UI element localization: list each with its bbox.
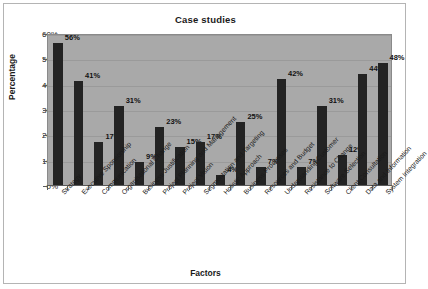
bar-group: 23% bbox=[155, 35, 164, 185]
x-axis-tick-mark bbox=[47, 186, 48, 190]
x-axis-tick-mark bbox=[392, 186, 393, 190]
chart-container: Case studies Percentage 0%10%20%30%40%50… bbox=[3, 3, 406, 284]
x-axis-tick-mark bbox=[270, 186, 271, 190]
x-axis-title: Factors bbox=[4, 268, 407, 278]
bar-group: 17% bbox=[94, 35, 103, 185]
plot-area: 56%41%17%31%9%23%15%17%4%25%7%42%7%31%12… bbox=[47, 34, 392, 186]
x-axis-tick-mark bbox=[189, 186, 190, 190]
x-axis-tick-mark bbox=[128, 186, 129, 190]
x-axis-tick-mark bbox=[67, 186, 68, 190]
x-axis-line bbox=[47, 185, 392, 186]
bar[interactable] bbox=[74, 81, 83, 185]
x-axis-tick-mark bbox=[209, 186, 210, 190]
chart-title: Case studies bbox=[4, 14, 407, 25]
bar-group: 41% bbox=[74, 35, 83, 185]
bar-group: 44% bbox=[358, 35, 367, 185]
bar-group: 4% bbox=[216, 35, 225, 185]
x-axis-tick-mark bbox=[291, 186, 292, 190]
bar-group: 56% bbox=[53, 35, 62, 185]
bar-value-label: 48% bbox=[390, 53, 405, 62]
x-axis-tick-mark bbox=[372, 186, 373, 190]
x-axis-tick-mark bbox=[311, 186, 312, 190]
x-axis-tick-mark bbox=[148, 186, 149, 190]
x-axis-tick-mark bbox=[230, 186, 231, 190]
x-axis-tick-mark bbox=[351, 186, 352, 190]
x-axis-tick-mark bbox=[250, 186, 251, 190]
x-axis-tick-mark bbox=[331, 186, 332, 190]
y-axis-title: Percentage bbox=[7, 37, 17, 117]
bar[interactable] bbox=[53, 43, 62, 185]
x-axis-tick-mark bbox=[88, 186, 89, 190]
x-axis-tick-mark bbox=[169, 186, 170, 190]
x-axis-tick-mark bbox=[108, 186, 109, 190]
